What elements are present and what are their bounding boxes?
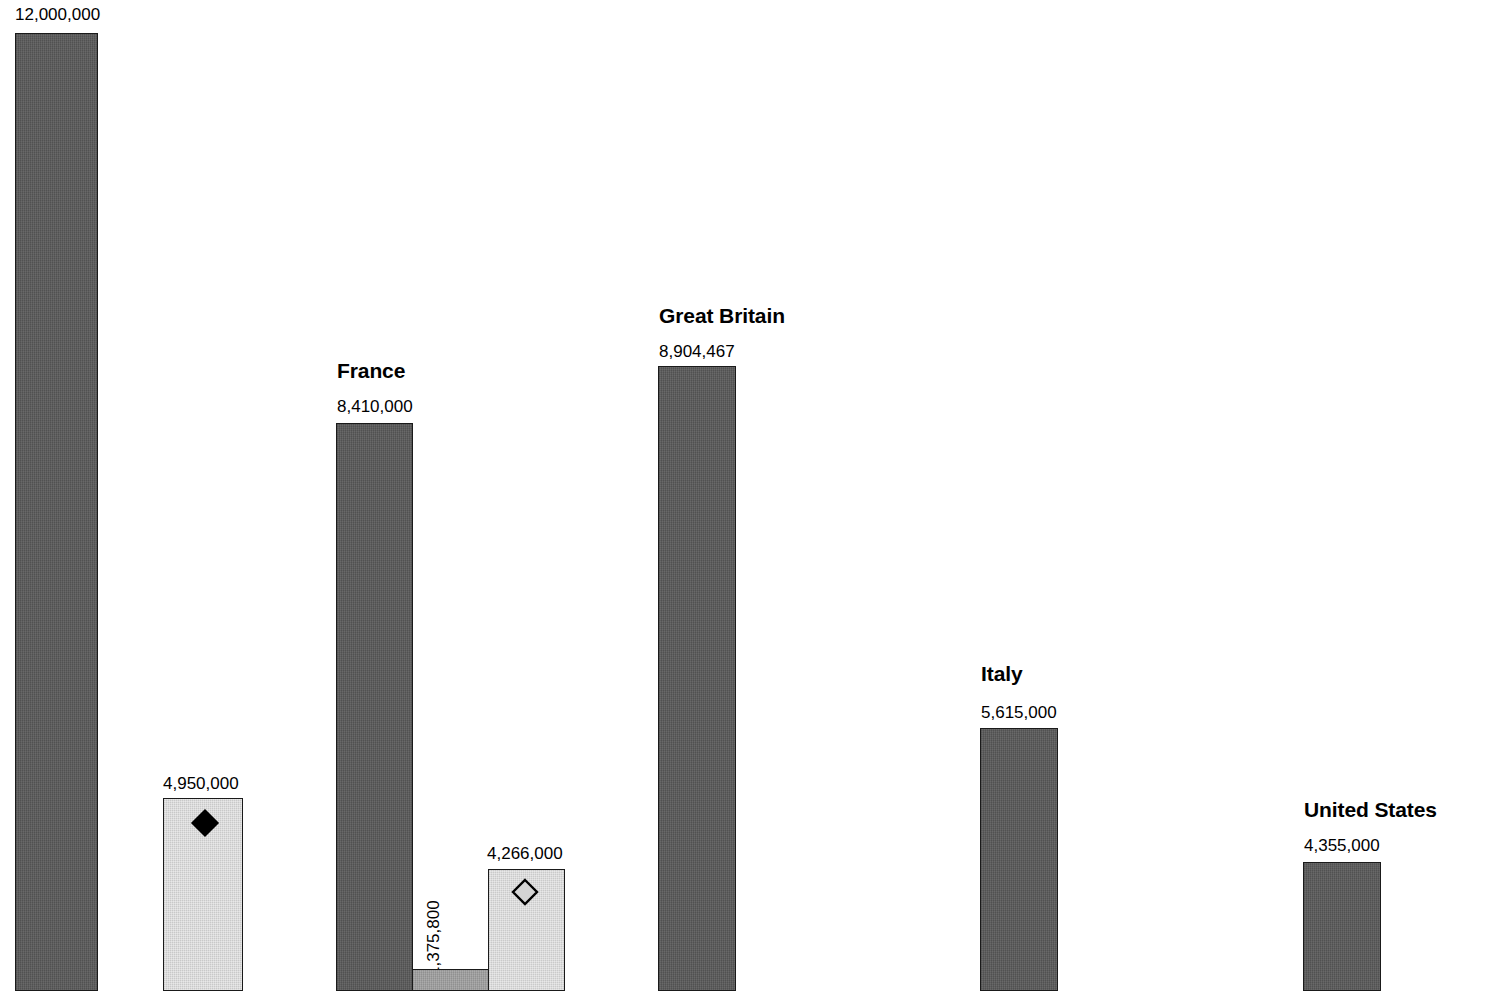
bar-italy-dark[interactable] xyxy=(980,728,1058,991)
bar-value-label: 8,904,467 xyxy=(659,343,735,360)
group-label-italy: Italy xyxy=(981,663,1023,684)
bar-chart: 12,000,000 4,950,000 France 8,410,000 1,… xyxy=(0,0,1490,991)
bar-united-states-dark[interactable] xyxy=(1303,862,1381,991)
bar-value-label-rotated: 1,375,800 xyxy=(425,900,442,976)
bar-value-label: 4,950,000 xyxy=(163,775,239,792)
bar-value-label: 5,615,000 xyxy=(981,704,1057,721)
group-label-france: France xyxy=(337,360,405,381)
bar-value-label: 4,355,000 xyxy=(1304,837,1380,854)
group-label-great-britain: Great Britain xyxy=(659,305,785,326)
bar-great-britain-dark[interactable] xyxy=(658,366,736,991)
bar-france-dark[interactable] xyxy=(336,423,413,991)
bar-value-label: 4,266,000 xyxy=(487,845,563,862)
group-label-united-states: United States xyxy=(1304,799,1437,820)
filled-diamond-icon xyxy=(190,808,220,838)
bar-value-label: 8,410,000 xyxy=(337,398,413,415)
open-diamond-icon xyxy=(510,877,540,907)
bar-france-medium[interactable] xyxy=(412,969,489,991)
bar-value-label: 12,000,000 xyxy=(15,6,100,23)
bar-group0-dark[interactable] xyxy=(15,33,98,991)
